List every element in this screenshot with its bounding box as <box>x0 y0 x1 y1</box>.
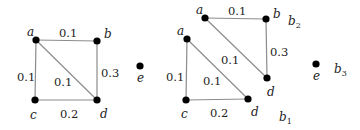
edge-a-d <box>36 40 97 100</box>
weight-a-b: 0.1 <box>59 26 77 40</box>
weight-a2-b2: 0.1 <box>228 4 246 18</box>
edge-a1-d1 <box>187 39 248 99</box>
vertex-label-d1: d <box>251 105 259 119</box>
vertex-b2 <box>262 15 269 22</box>
edge-a1-c1 <box>186 39 187 100</box>
vertex-d1 <box>244 95 251 102</box>
vertex-c <box>31 96 38 103</box>
vertex-label-b2: b <box>273 7 281 21</box>
vertex-label-d: d <box>100 107 108 121</box>
block-label-b1: b1 <box>279 110 292 126</box>
edge-b2-d2 <box>266 19 267 78</box>
vertex-b <box>93 37 100 44</box>
vertex-label-c: c <box>30 108 37 122</box>
right-graph: a c d a b d e 0.1 0.1 0.2 0.1 0.1 0.3 b1… <box>166 3 347 126</box>
weight-a2-d2: 0.1 <box>221 53 239 67</box>
vertex-label-a: a <box>27 25 34 39</box>
weight-c-d: 0.2 <box>60 107 78 121</box>
vertex-c1 <box>182 96 189 103</box>
edge-a2-d2 <box>205 18 267 78</box>
graph-decomposition-figure: a b c d e 0.1 0.1 0.1 0.3 0.2 a c d a b … <box>0 0 360 130</box>
vertex-a1 <box>183 35 190 42</box>
weight-b2-d2: 0.3 <box>270 45 288 59</box>
block-label-b2: b2 <box>288 14 301 30</box>
vertex-d <box>93 96 100 103</box>
left-graph: a b c d e 0.1 0.1 0.1 0.3 0.2 <box>17 25 144 122</box>
block-label-b3: b3 <box>334 62 347 78</box>
vertex-label-e3: e <box>313 69 320 83</box>
edge-c1-d1 <box>186 99 248 100</box>
weight-a-d: 0.1 <box>54 75 72 89</box>
vertex-label-b: b <box>104 27 112 41</box>
vertex-label-d2: d <box>267 85 275 99</box>
vertex-label-e: e <box>137 71 144 85</box>
edge-a2-b2 <box>205 18 266 19</box>
weight-a1-d1: 0.1 <box>203 74 221 88</box>
vertex-e <box>136 62 143 69</box>
vertex-d2 <box>263 74 270 81</box>
vertex-e3 <box>312 60 319 67</box>
vertex-label-a2: a <box>196 3 203 17</box>
weight-b-d: 0.3 <box>101 66 119 80</box>
weight-c1-d1: 0.2 <box>210 106 228 120</box>
weight-a1-c1: 0.1 <box>166 70 184 84</box>
vertex-label-c1: c <box>181 107 188 121</box>
edge-a-b <box>36 40 97 41</box>
weight-a-c: 0.1 <box>17 70 35 84</box>
vertex-label-a1: a <box>177 24 184 38</box>
